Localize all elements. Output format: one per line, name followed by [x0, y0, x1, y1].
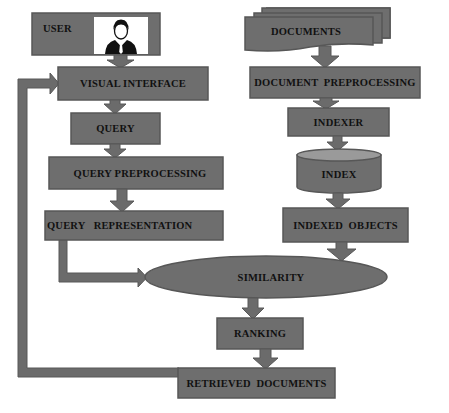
ranking-label: RANKING — [234, 328, 286, 339]
arrow-index-to-indexed-objects — [326, 193, 350, 209]
retrieved-documents-label: RETRIEVED DOCUMENTS — [187, 378, 327, 389]
arrow-documents-to-preprocessing — [311, 46, 339, 68]
query-representation-node: QUERY REPRESENTATION — [45, 211, 223, 240]
similarity-node: SIMILARITY — [145, 256, 387, 298]
arrow-indexed-objects-to-similarity — [327, 242, 356, 261]
query-label: QUERY — [96, 123, 135, 134]
user-node: USER — [32, 13, 160, 55]
visual-interface-node: VISUAL INTERFACE — [58, 67, 208, 100]
index-node: INDEX — [297, 149, 381, 193]
query-preprocessing-node: QUERY PREPROCESSING — [49, 157, 223, 189]
user-label: USER — [43, 23, 72, 34]
indexer-node: INDEXER — [288, 108, 389, 136]
arrow-user-to-visual-interface — [107, 55, 134, 68]
query-preprocessing-label: QUERY PREPROCESSING — [74, 168, 207, 179]
indexed-objects-node: INDEXED OBJECTS — [283, 208, 408, 242]
indexed-objects-label: INDEXED OBJECTS — [293, 220, 398, 231]
arrow-ranking-to-retrieved — [253, 349, 278, 369]
query-node: QUERY — [71, 113, 160, 144]
document-preprocessing-node: DOCUMENT PREPROCESSING — [250, 67, 420, 98]
user-avatar-icon — [94, 17, 148, 54]
indexer-label: INDEXER — [314, 117, 364, 128]
visual-interface-label: VISUAL INTERFACE — [80, 78, 186, 89]
ir-flow-diagram: USER VISUAL INTERFACE QUERY QUERY P — [0, 0, 449, 413]
query-representation-label: QUERY REPRESENTATION — [47, 220, 193, 231]
arrow-visual-interface-to-query — [104, 100, 126, 114]
arrow-similarity-to-ranking — [242, 298, 264, 319]
document-preprocessing-label: DOCUMENT PREPROCESSING — [254, 77, 415, 88]
arrow-preprocessing-to-representation — [110, 189, 134, 212]
similarity-label: SIMILARITY — [238, 272, 305, 283]
index-label: INDEX — [322, 169, 357, 180]
query-to-similarity-arrow — [59, 240, 147, 287]
arrow-query-to-preprocessing — [104, 144, 126, 158]
ranking-node: RANKING — [217, 318, 303, 349]
documents-node: DOCUMENTS — [245, 8, 390, 51]
documents-label: DOCUMENTS — [271, 26, 341, 37]
retrieved-documents-node: RETRIEVED DOCUMENTS — [178, 368, 335, 398]
